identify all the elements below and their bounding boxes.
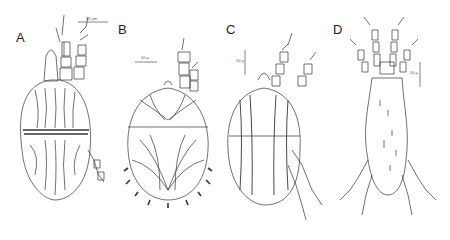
mite-illustrations xyxy=(0,0,450,240)
panel-a-drawing xyxy=(20,15,108,200)
panel-label-a: A xyxy=(16,30,25,45)
panel-label-d: D xyxy=(333,22,342,37)
scale-bar-d-label: 50 µ xyxy=(410,70,418,75)
scale-bar-b-label: 50 µ xyxy=(141,55,149,60)
panel-label-c: C xyxy=(226,22,235,37)
scale-bar-a-label: 50 µm xyxy=(86,16,97,21)
panel-d-drawing xyxy=(340,17,436,215)
panel-label-b: B xyxy=(118,22,127,37)
panel-b-drawing xyxy=(124,38,212,208)
scale-bar-c-label: 50 µ xyxy=(236,58,244,63)
